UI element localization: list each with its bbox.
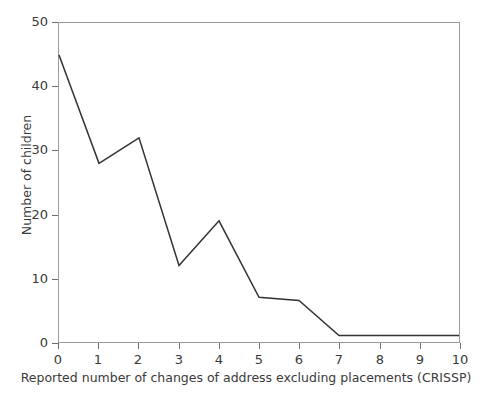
x-tick-label-wrap: 7 xyxy=(324,352,354,367)
y-axis-title: Number of children xyxy=(20,65,34,285)
x-tick-label: 9 xyxy=(405,352,435,367)
x-tick-label: 2 xyxy=(123,352,153,367)
x-tick-label-wrap: 4 xyxy=(204,352,234,367)
x-tick-mark xyxy=(98,343,99,349)
y-tick-label: 0 xyxy=(16,336,48,349)
x-tick-label: 8 xyxy=(365,352,395,367)
x-tick-label-wrap: 6 xyxy=(284,352,314,367)
x-tick-label: 5 xyxy=(244,352,274,367)
x-tick-label-wrap: 9 xyxy=(405,352,435,367)
line-chart-figure: 01020304050 012345678910 Number of child… xyxy=(0,0,492,397)
x-tick-label-wrap: 3 xyxy=(164,352,194,367)
x-tick-mark xyxy=(299,343,300,349)
x-tick-mark xyxy=(420,343,421,349)
x-tick-mark xyxy=(58,343,59,349)
x-tick-label: 0 xyxy=(43,352,73,367)
plot-area xyxy=(58,22,460,343)
y-tick-label-wrap: 0 xyxy=(10,336,48,349)
x-tick-label: 1 xyxy=(83,352,113,367)
x-tick-mark xyxy=(179,343,180,349)
x-tick-mark xyxy=(259,343,260,349)
x-tick-mark xyxy=(138,343,139,349)
data-series-line xyxy=(59,23,459,342)
y-tick-label: 50 xyxy=(16,15,48,28)
x-tick-label: 6 xyxy=(284,352,314,367)
x-tick-label: 10 xyxy=(445,352,475,367)
x-tick-mark xyxy=(380,343,381,349)
x-tick-label-wrap: 1 xyxy=(83,352,113,367)
x-tick-label: 3 xyxy=(164,352,194,367)
series-polyline xyxy=(59,55,459,336)
x-axis-title: Reported number of changes of address ex… xyxy=(0,370,492,385)
x-tick-label-wrap: 10 xyxy=(445,352,475,367)
y-tick-label-wrap: 50 xyxy=(10,15,48,28)
x-tick-mark xyxy=(219,343,220,349)
x-tick-label-wrap: 0 xyxy=(43,352,73,367)
x-tick-label: 7 xyxy=(324,352,354,367)
x-tick-mark xyxy=(339,343,340,349)
x-tick-label-wrap: 8 xyxy=(365,352,395,367)
x-tick-label-wrap: 5 xyxy=(244,352,274,367)
x-tick-mark xyxy=(460,343,461,349)
x-tick-label-wrap: 2 xyxy=(123,352,153,367)
x-tick-label: 4 xyxy=(204,352,234,367)
y-tick-mark xyxy=(52,343,58,344)
